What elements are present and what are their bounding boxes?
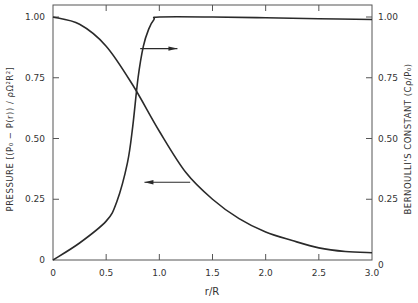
x-tick-label: 2.0 — [259, 268, 274, 278]
y-right-tick-label: 0.75 — [378, 73, 398, 83]
arrow-right-icon — [168, 46, 177, 50]
y-axis-left-label: PRESSURE [(P₀ − P(r)) / ρΩ²R²] — [5, 67, 15, 212]
x-tick-label: 1.0 — [152, 268, 167, 278]
y-axis-right-ticks: 00.250.500.751.00 — [366, 12, 398, 270]
x-tick-label: 0.5 — [99, 268, 113, 278]
y-right-tick-label: 1.00 — [378, 12, 398, 22]
series-lines — [53, 17, 372, 260]
bernoulli-curve — [53, 17, 372, 260]
arrow-annotations — [140, 46, 190, 184]
y-tick-label: 1.00 — [25, 12, 45, 22]
chart-svg: 00.51.01.52.02.53.0 00.250.500.751.00 00… — [0, 0, 418, 303]
y-tick-label: 0.50 — [25, 134, 45, 144]
x-tick-label: 0 — [50, 268, 56, 278]
x-axis-ticks: 00.51.01.52.02.53.0 — [50, 5, 379, 278]
y-right-tick-label: 0 — [378, 260, 384, 270]
pressure-curve — [53, 17, 372, 253]
y-tick-label: 0.25 — [25, 194, 45, 204]
y-axis-left-ticks: 00.250.500.751.00 — [25, 12, 59, 265]
plot-frame — [53, 5, 372, 260]
y-right-tick-label: 0.25 — [378, 194, 398, 204]
y-right-tick-label: 0.50 — [378, 134, 398, 144]
y-axis-right-label: BERNOULLI'S CONSTANT (Cρ/P₀) — [403, 63, 413, 214]
x-tick-label: 2.5 — [312, 268, 326, 278]
x-tick-label: 1.5 — [205, 268, 219, 278]
chart-container: 00.51.01.52.02.53.0 00.250.500.751.00 00… — [0, 0, 418, 303]
x-axis-label: r/R — [205, 286, 219, 297]
plot-border — [53, 5, 372, 260]
y-tick-label: 0.75 — [25, 73, 45, 83]
arrow-left-icon — [144, 180, 153, 184]
y-tick-label: 0 — [39, 255, 45, 265]
